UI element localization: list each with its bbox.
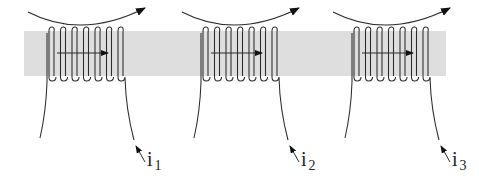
current-label: i2 — [301, 148, 316, 173]
current-arrow-icon — [441, 146, 450, 162]
current-label: i3 — [452, 148, 467, 173]
right-lead-wire — [279, 78, 288, 140]
flux-arrow-icon — [182, 8, 299, 25]
flux-arrow-icon — [28, 8, 145, 25]
three-coil-diagram: i1i2i3 — [0, 0, 479, 179]
right-lead-wire — [125, 78, 134, 140]
current-label: i1 — [147, 148, 162, 173]
right-lead-wire — [430, 78, 439, 140]
current-arrow-icon — [136, 146, 145, 162]
flux-arrow-icon — [333, 8, 450, 25]
current-arrow-icon — [290, 146, 299, 162]
